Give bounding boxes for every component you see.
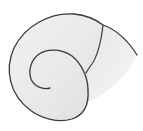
spiral-shell-drawing	[0, 0, 143, 131]
